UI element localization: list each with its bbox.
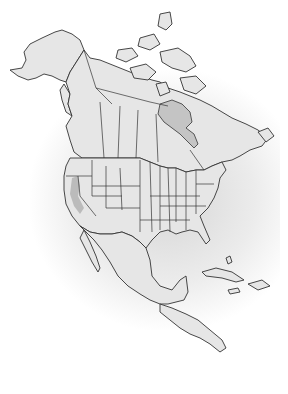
arctic-island	[116, 48, 138, 62]
arctic-island	[130, 64, 156, 80]
north-america-map	[0, 0, 288, 394]
arctic-island	[138, 34, 160, 50]
map-container	[0, 0, 288, 394]
central-america	[160, 304, 226, 352]
arctic-island	[160, 48, 196, 72]
hispaniola	[248, 280, 270, 290]
arctic-island	[180, 76, 206, 94]
cuba	[202, 268, 244, 282]
jamaica	[228, 288, 240, 294]
bahamas	[226, 256, 232, 264]
arctic-island	[158, 12, 172, 30]
